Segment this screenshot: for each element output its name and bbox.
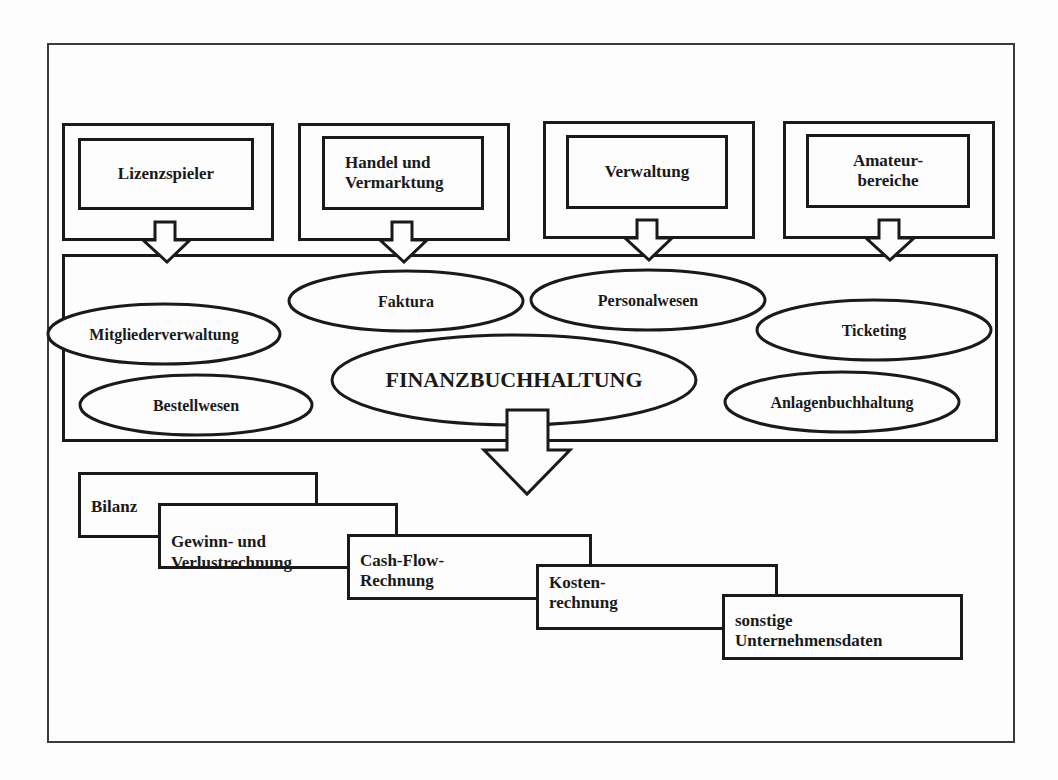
arrow-down-icon: [143, 222, 190, 262]
output-label: sonstige Unternehmensdaten: [735, 611, 882, 650]
arrow-down-icon: [625, 220, 672, 260]
module-faktura: Faktura: [378, 293, 434, 311]
module-mitgliederverwaltung: Mitgliederverwaltung: [89, 326, 238, 344]
module-finanzbuchhaltung: FINANZBUCHHALTUNG: [385, 367, 642, 393]
source-amateurbereiche: Amateur- bereiche: [806, 134, 970, 208]
module-bestellwesen: Bestellwesen: [153, 397, 239, 415]
output-label: Cash-Flow- Rechnung: [360, 551, 444, 590]
source-label: Handel und Vermarktung: [345, 153, 444, 194]
source-verwaltung: Verwaltung: [566, 135, 728, 209]
output-label: Bilanz: [91, 497, 137, 516]
arrow-down-icon: [866, 220, 914, 260]
source-label: Amateur- bereiche: [853, 151, 923, 192]
source-label: Lizenzspieler: [118, 164, 214, 184]
output-label: Gewinn- und Verlustrechnung: [171, 532, 292, 571]
module-ticketing: Ticketing: [842, 322, 907, 340]
source-label: Verwaltung: [605, 162, 689, 182]
source-handel-vermarktung: Handel und Vermarktung: [322, 136, 484, 210]
output-label: Kosten- rechnung: [549, 573, 618, 612]
module-personalwesen: Personalwesen: [598, 292, 698, 310]
arrow-down-icon: [380, 222, 427, 262]
source-lizenzspieler: Lizenzspieler: [78, 138, 254, 210]
output-sonstige: sonstige Unternehmensdaten: [722, 594, 963, 660]
module-anlagenbuchhaltung: Anlagenbuchhaltung: [770, 394, 913, 412]
